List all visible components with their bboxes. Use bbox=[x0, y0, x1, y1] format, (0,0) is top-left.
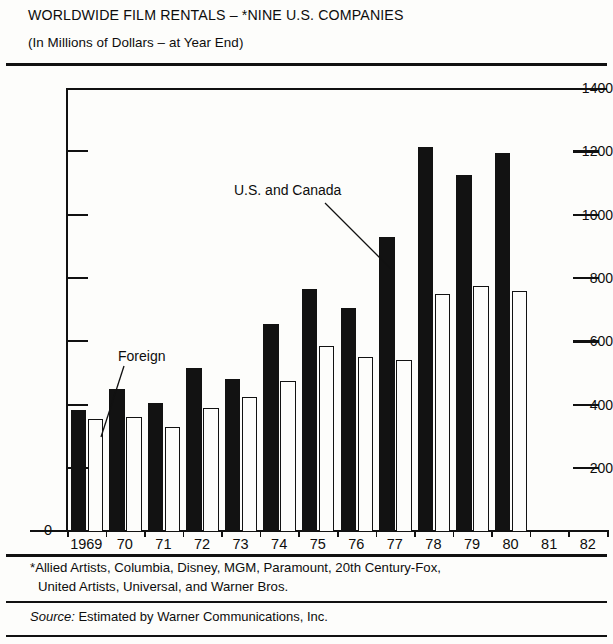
x-axis-label-81: 81 bbox=[541, 536, 557, 552]
source-line: Source: Estimated by Warner Communicatio… bbox=[30, 609, 328, 624]
chart-page: WORLDWIDE FILM RENTALS – *NINE U.S. COMP… bbox=[0, 0, 613, 644]
bar-foreign-75[interactable] bbox=[319, 346, 335, 531]
x-tick-end bbox=[607, 530, 609, 537]
y-tick-left-800 bbox=[66, 277, 88, 279]
x-tick-71 bbox=[144, 530, 146, 537]
y-axis-label-0: 0 bbox=[44, 522, 52, 538]
x-axis-label-82: 82 bbox=[580, 536, 596, 552]
y-tick-left-600 bbox=[66, 340, 88, 342]
bar-us-canada-75[interactable] bbox=[302, 289, 318, 531]
bar-foreign-76[interactable] bbox=[358, 357, 374, 531]
bar-foreign-78[interactable] bbox=[435, 294, 451, 532]
footnote-line-1: *Allied Artists, Columbia, Disney, MGM, … bbox=[30, 559, 441, 577]
y-tick-right-800 bbox=[573, 277, 599, 279]
bar-chart: 2004006008001000120014000196970717273747… bbox=[0, 0, 613, 644]
x-tick-1969 bbox=[67, 530, 69, 537]
x-axis-label-75: 75 bbox=[310, 536, 326, 552]
x-tick-77 bbox=[376, 530, 378, 537]
y-tick-right-600 bbox=[573, 340, 599, 342]
x-axis-label-73: 73 bbox=[232, 536, 248, 552]
x-axis-label-70: 70 bbox=[117, 536, 133, 552]
x-tick-81 bbox=[530, 530, 532, 537]
bar-foreign-70[interactable] bbox=[126, 417, 142, 531]
x-tick-73 bbox=[221, 530, 223, 537]
bar-us-canada-73[interactable] bbox=[225, 379, 241, 531]
bar-foreign-77[interactable] bbox=[396, 360, 412, 531]
footnote-line-2: United Artists, Universal, and Warner Br… bbox=[38, 578, 288, 596]
bar-us-canada-80[interactable] bbox=[495, 153, 511, 532]
bar-us-canada-78[interactable] bbox=[418, 147, 434, 532]
y-tick-left-1000 bbox=[66, 214, 88, 216]
divider-footnote-top bbox=[6, 554, 607, 557]
x-tick-82 bbox=[568, 530, 570, 537]
bar-foreign-79[interactable] bbox=[473, 286, 489, 532]
x-axis-label-74: 74 bbox=[271, 536, 287, 552]
x-tick-72 bbox=[183, 530, 185, 537]
x-tick-76 bbox=[337, 530, 339, 537]
y-axis bbox=[66, 88, 68, 532]
bar-us-canada-70[interactable] bbox=[109, 389, 125, 532]
x-axis-label-80: 80 bbox=[502, 536, 518, 552]
divider-bottom bbox=[6, 635, 607, 637]
y-tick-right-1200 bbox=[573, 150, 599, 152]
bar-us-canada-72[interactable] bbox=[186, 368, 202, 531]
bar-us-canada-71[interactable] bbox=[148, 403, 164, 531]
bar-us-canada-76[interactable] bbox=[341, 308, 357, 531]
y-tick-right-400 bbox=[573, 404, 599, 406]
y-tick-right-200 bbox=[573, 467, 599, 469]
axis-line-top bbox=[66, 88, 607, 90]
x-tick-70 bbox=[106, 530, 108, 537]
x-axis-label-77: 77 bbox=[387, 536, 403, 552]
x-tick-79 bbox=[453, 530, 455, 537]
bar-foreign-80[interactable] bbox=[512, 291, 528, 532]
y-tick-right-1000 bbox=[573, 214, 599, 216]
bar-us-canada-79[interactable] bbox=[456, 175, 472, 531]
x-axis-label-76: 76 bbox=[348, 536, 364, 552]
x-axis-label-71: 71 bbox=[155, 536, 171, 552]
x-tick-80 bbox=[491, 530, 493, 537]
x-tick-75 bbox=[298, 530, 300, 537]
x-tick-78 bbox=[414, 530, 416, 537]
divider-source-top bbox=[6, 601, 607, 603]
x-axis-label-78: 78 bbox=[425, 536, 441, 552]
annotation-us-canada: U.S. and Canada bbox=[234, 182, 341, 198]
bar-foreign-1969[interactable] bbox=[88, 419, 104, 531]
source-text: Estimated by Warner Communications, Inc. bbox=[78, 609, 328, 624]
bar-foreign-72[interactable] bbox=[203, 408, 219, 532]
bar-foreign-73[interactable] bbox=[242, 397, 258, 532]
x-axis-label-79: 79 bbox=[464, 536, 480, 552]
x-tick-74 bbox=[260, 530, 262, 537]
y-tick-left-400 bbox=[66, 404, 88, 406]
bar-us-canada-1969[interactable] bbox=[71, 410, 87, 532]
bar-foreign-74[interactable] bbox=[280, 381, 296, 531]
source-label: Source: bbox=[30, 609, 75, 624]
bar-us-canada-77[interactable] bbox=[379, 237, 395, 532]
x-axis-label-72: 72 bbox=[194, 536, 210, 552]
y-axis-label-1400: 1400 bbox=[551, 80, 613, 96]
x-axis-label-1969: 1969 bbox=[70, 536, 102, 552]
y-tick-left-1200 bbox=[66, 150, 88, 152]
bar-foreign-71[interactable] bbox=[165, 427, 181, 532]
bar-us-canada-74[interactable] bbox=[263, 324, 279, 531]
annotation-foreign: Foreign bbox=[118, 348, 165, 364]
